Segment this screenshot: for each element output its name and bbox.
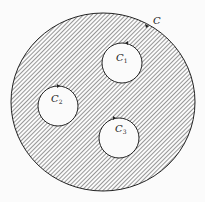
inner-contour-c2 bbox=[38, 86, 78, 126]
inner-contour-c1 bbox=[102, 43, 142, 83]
multiply-connected-region-diagram: C C1 C2 C3 bbox=[0, 0, 205, 202]
label-c: C bbox=[153, 15, 161, 26]
